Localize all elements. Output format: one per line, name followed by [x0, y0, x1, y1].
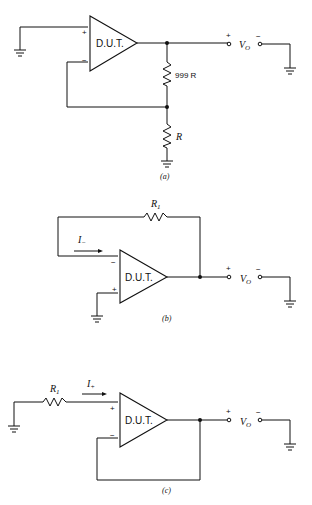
junction-dot [198, 418, 202, 422]
output-terminal-minus [258, 42, 262, 46]
minus-sign-b: − [111, 258, 116, 267]
minus-sign-c: − [110, 431, 115, 440]
resistor-label-r: R [175, 131, 182, 142]
terminal-plus-a: + [226, 31, 231, 40]
vo-label-c: VO [240, 416, 251, 429]
current-label-c: I+ [86, 378, 95, 391]
wire-plus-input-b [97, 293, 118, 316]
wire-output-ground-a [262, 44, 290, 68]
wire-output-ground-c [262, 420, 290, 444]
resistor-r1-icon [144, 213, 167, 221]
current-arrow-icon [82, 392, 107, 396]
opamp-label-a: D.U.T. [96, 38, 124, 49]
resistor-label-r1-c: R1 [49, 383, 60, 396]
caption-b: (b) [162, 314, 172, 323]
terminal-plus-c: + [226, 407, 231, 416]
ground-icon [91, 316, 103, 322]
ground-icon [284, 301, 296, 307]
circuit-diagram: D.U.T. + − 999 R R (a) + VO − [0, 0, 312, 505]
output-terminal-minus [258, 418, 262, 422]
resistor-r-icon [163, 124, 171, 148]
wire-feedback-a [67, 62, 167, 107]
ground-icon [161, 161, 173, 167]
terminal-plus-b: + [226, 264, 231, 273]
resistor-999r-icon [163, 62, 171, 86]
wire-input-c [14, 402, 43, 426]
ground-icon [284, 444, 296, 450]
ground-icon [284, 68, 296, 74]
output-terminal-plus [227, 418, 231, 422]
resistor-label-999r: 999 R [175, 71, 197, 80]
current-label-b: I− [77, 234, 86, 247]
caption-c: (c) [162, 486, 171, 495]
terminal-minus-c: − [256, 408, 261, 417]
resistor-r1-icon [43, 398, 66, 406]
wire-feedback-b [58, 217, 144, 256]
minus-sign-a: − [82, 56, 87, 65]
terminal-minus-a: − [256, 32, 261, 41]
ground-icon [14, 50, 26, 56]
wire-output-ground-b [262, 277, 290, 301]
vo-label-b: VO [240, 273, 251, 286]
panel-b: R1 I− D.U.T. − + (b) + VO − [58, 198, 296, 323]
output-terminal-plus [227, 275, 231, 279]
output-terminal-minus [258, 275, 262, 279]
output-terminal-plus [227, 42, 231, 46]
terminal-minus-b: − [256, 265, 261, 274]
opamp-label-c: D.U.T. [125, 415, 153, 426]
resistor-label-r1-b: R1 [150, 198, 161, 211]
plus-sign-a: + [82, 28, 87, 37]
plus-sign-c: + [110, 404, 115, 413]
current-arrow-icon [74, 249, 103, 253]
wire-plus-input-a [20, 27, 88, 50]
vo-label-a: VO [239, 39, 250, 52]
junction-dot [198, 275, 202, 279]
panel-c: R1 I+ D.U.T. + − (c) + VO − [8, 378, 296, 495]
panel-a: D.U.T. + − 999 R R (a) + VO − [14, 16, 296, 181]
ground-icon [8, 426, 20, 432]
caption-a: (a) [160, 172, 170, 181]
opamp-label-b: D.U.T. [125, 272, 153, 283]
